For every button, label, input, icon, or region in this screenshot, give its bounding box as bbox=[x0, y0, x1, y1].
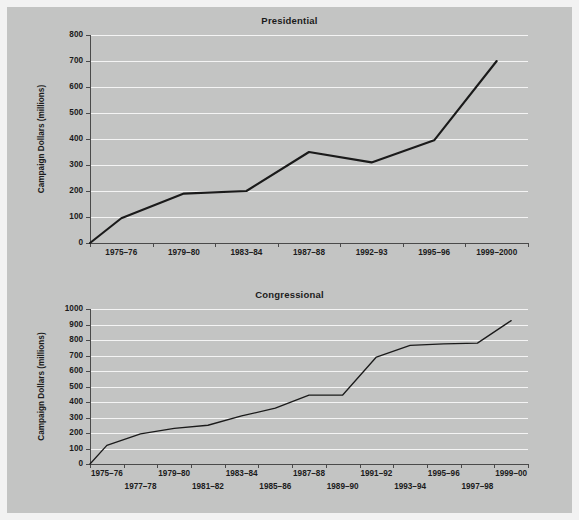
chart-title-presidential: Presidential bbox=[7, 15, 572, 26]
x-axis-line bbox=[90, 464, 528, 465]
y-axis-tick-label: 500 bbox=[42, 382, 83, 391]
x-axis-tick bbox=[360, 464, 361, 468]
x-axis-line bbox=[90, 243, 528, 244]
figure-container: Presidential Campaign Dollars (millions)… bbox=[7, 7, 572, 513]
y-axis-tick-label: 200 bbox=[42, 428, 83, 437]
x-axis-tick bbox=[494, 464, 495, 468]
y-axis-tick-label: 100 bbox=[42, 444, 83, 453]
x-axis-tick bbox=[427, 464, 428, 468]
x-axis-tick bbox=[528, 464, 529, 468]
y-axis-tick-label: 100 bbox=[42, 212, 83, 221]
x-axis-tick bbox=[124, 464, 125, 468]
x-axis-tick bbox=[340, 243, 341, 247]
x-axis-tick-label: 1981–82 bbox=[176, 482, 240, 491]
x-axis-tick bbox=[191, 464, 192, 468]
x-axis-tick bbox=[157, 464, 158, 468]
data-series-line bbox=[90, 35, 528, 243]
x-axis-tick-label: 1975–76 bbox=[75, 469, 139, 478]
x-axis-tick-label: 1983–84 bbox=[214, 248, 278, 257]
y-axis-tick-label: 800 bbox=[42, 30, 83, 39]
x-axis-tick-label: 1985–86 bbox=[243, 482, 307, 491]
x-axis-tick bbox=[153, 243, 154, 247]
x-axis-tick-label: 1995–96 bbox=[402, 248, 466, 257]
x-axis-tick bbox=[292, 464, 293, 468]
x-axis-tick-label: 1983–84 bbox=[210, 469, 274, 478]
x-axis-tick-label: 1991–92 bbox=[344, 469, 408, 478]
y-axis-tick-label: 300 bbox=[42, 413, 83, 422]
x-axis-tick-label: 1975–76 bbox=[89, 248, 153, 257]
y-axis-tick-label: 200 bbox=[42, 186, 83, 195]
y-axis-tick-label: 900 bbox=[42, 320, 83, 329]
x-axis-tick bbox=[393, 464, 394, 468]
x-axis-tick-label: 1977–78 bbox=[109, 482, 173, 491]
y-axis-tick-label: 1000 bbox=[42, 304, 83, 313]
x-axis-tick-label: 1999–2000 bbox=[465, 248, 529, 257]
x-axis-tick bbox=[278, 243, 279, 247]
x-axis-tick-label: 1987–88 bbox=[277, 248, 341, 257]
y-axis-tick-label: 800 bbox=[42, 335, 83, 344]
x-axis-tick bbox=[258, 464, 259, 468]
x-axis-tick bbox=[403, 243, 404, 247]
y-axis-tick-label: 300 bbox=[42, 160, 83, 169]
plot-area-congressional bbox=[90, 309, 528, 464]
x-axis-tick bbox=[326, 464, 327, 468]
y-axis-tick-label: 500 bbox=[42, 108, 83, 117]
x-axis-tick bbox=[461, 464, 462, 468]
x-axis-tick-label: 1995–96 bbox=[412, 469, 476, 478]
x-axis-tick bbox=[465, 243, 466, 247]
y-axis-tick-label: 0 bbox=[42, 459, 83, 468]
x-axis-tick-label: 1993–94 bbox=[378, 482, 442, 491]
plot-area-presidential bbox=[90, 35, 528, 243]
y-axis-tick-label: 400 bbox=[42, 134, 83, 143]
y-axis-tick-label: 600 bbox=[42, 82, 83, 91]
x-axis-tick-label: 1979–80 bbox=[142, 469, 206, 478]
x-axis-tick bbox=[215, 243, 216, 247]
x-axis-tick bbox=[528, 243, 529, 247]
x-axis-tick-label: 1987–88 bbox=[277, 469, 341, 478]
x-axis-tick bbox=[225, 464, 226, 468]
y-axis-tick-label: 0 bbox=[42, 238, 83, 247]
x-axis-tick-label: 1997–98 bbox=[445, 482, 509, 491]
y-axis-tick-label: 400 bbox=[42, 397, 83, 406]
y-axis-tick-label: 700 bbox=[42, 351, 83, 360]
chart-title-congressional: Congressional bbox=[7, 289, 572, 300]
x-axis-tick-label: 1992–93 bbox=[340, 248, 404, 257]
x-axis-tick-label: 1979–80 bbox=[152, 248, 216, 257]
y-axis-tick-label: 600 bbox=[42, 366, 83, 375]
x-axis-tick-label: 1989–90 bbox=[311, 482, 375, 491]
y-axis-tick-label: 700 bbox=[42, 56, 83, 65]
data-series-line bbox=[90, 309, 528, 464]
x-axis-tick-label: 1999–00 bbox=[479, 469, 543, 478]
